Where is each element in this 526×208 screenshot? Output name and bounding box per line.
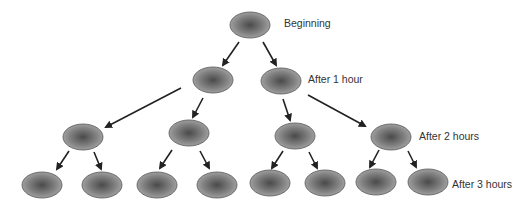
cell-icon xyxy=(82,172,122,198)
cell-icon xyxy=(193,67,233,93)
division-arrows xyxy=(57,42,416,169)
arrow-icon xyxy=(94,152,101,169)
arrow-icon xyxy=(223,42,239,65)
label-after-2-hours: After 2 hours xyxy=(419,130,479,142)
arrow-icon xyxy=(263,42,276,65)
arrow-icon xyxy=(283,99,290,120)
cell-icon xyxy=(63,124,103,150)
label-beginning: Beginning xyxy=(284,17,331,29)
cell-icon xyxy=(250,170,290,196)
cell-icon xyxy=(408,169,448,195)
arrow-icon xyxy=(193,98,203,117)
cell-icon xyxy=(230,12,270,38)
cell-icon xyxy=(371,124,411,150)
label-after-1-hour: After 1 hour xyxy=(308,73,363,85)
arrow-icon xyxy=(370,150,379,167)
arrow-icon xyxy=(309,152,317,168)
cell-division-diagram xyxy=(0,0,526,208)
cell-icon xyxy=(356,169,396,195)
cell-icon xyxy=(137,172,177,198)
cell-icon xyxy=(261,68,301,94)
arrow-icon xyxy=(308,95,365,126)
label-after-3-hours: After 3 hours xyxy=(452,178,512,190)
cell-icon xyxy=(305,170,345,196)
arrow-icon xyxy=(160,150,172,168)
cell-icon xyxy=(275,123,315,149)
arrow-icon xyxy=(272,151,283,168)
cell-icon xyxy=(22,172,62,198)
arrow-icon xyxy=(57,151,69,169)
cells xyxy=(22,12,448,198)
arrow-icon xyxy=(200,151,209,168)
cell-icon xyxy=(169,120,209,146)
arrow-icon xyxy=(106,88,181,127)
cell-icon xyxy=(197,172,237,198)
arrow-icon xyxy=(408,151,416,167)
